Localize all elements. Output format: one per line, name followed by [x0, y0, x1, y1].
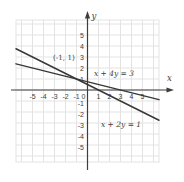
y-tick-label: -3: [78, 122, 84, 129]
line-equation-label: x + 2y = 1: [101, 120, 141, 129]
x-tick-label: -4: [40, 93, 46, 100]
y-tick-label: 4: [80, 43, 84, 50]
x-axis-arrow-icon: [167, 87, 175, 92]
line-equation-label: x + 4y = 3: [94, 69, 134, 78]
intersection-point-label: (-1, 1): [53, 53, 75, 62]
y-tick-label: -5: [78, 144, 84, 151]
y-tick-label: -2: [78, 111, 84, 118]
x-tick-label: 3: [119, 93, 123, 100]
y-tick-label: 5: [80, 32, 84, 39]
x-tick-label: -5: [29, 93, 35, 100]
y-tick-label: -1: [78, 100, 84, 107]
x-tick-label: -2: [62, 93, 68, 100]
x-axis-label: x: [167, 73, 172, 83]
y-tick-label: 2: [80, 65, 84, 72]
graph-canvas: xy-5-4-3-2-101234554321-1-2-3-4-5x + 4y …: [0, 0, 184, 182]
graph-figure: xy-5-4-3-2-101234554321-1-2-3-4-5x + 4y …: [0, 0, 184, 182]
x-tick-label: 4: [130, 93, 134, 100]
x-tick-label: -3: [51, 93, 57, 100]
y-tick-label: -4: [78, 133, 84, 140]
y-axis-arrow-icon: [85, 11, 90, 19]
x-tick-label: 1: [97, 93, 101, 100]
y-tick-label: 3: [80, 54, 84, 61]
y-axis-label: y: [91, 11, 97, 21]
